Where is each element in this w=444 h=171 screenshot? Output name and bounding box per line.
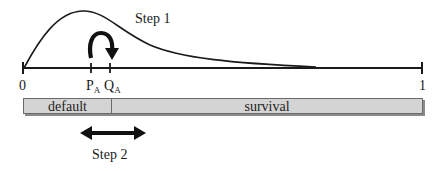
outcome-bar: default survival bbox=[23, 98, 423, 114]
step1-label: Step 1 bbox=[135, 12, 170, 26]
bar-segment-default: default bbox=[24, 99, 112, 113]
curved-arrow-icon bbox=[90, 33, 119, 60]
axis-label-pa: PA bbox=[86, 79, 100, 95]
step2-label: Step 2 bbox=[92, 148, 127, 162]
axis-label-end: 1 bbox=[419, 79, 426, 93]
pa-base: P bbox=[86, 78, 94, 93]
axis-label-start: 0 bbox=[19, 79, 26, 93]
axis-label-qa: QA bbox=[104, 79, 121, 95]
double-arrow-icon bbox=[80, 126, 146, 140]
pa-subscript: A bbox=[94, 85, 101, 95]
bar-segment-survival: survival bbox=[112, 99, 422, 113]
qa-base: Q bbox=[104, 78, 114, 93]
diagram-canvas bbox=[0, 0, 444, 171]
qa-subscript: A bbox=[114, 85, 121, 95]
